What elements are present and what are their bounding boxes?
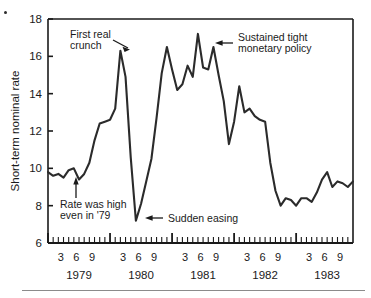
x-axis-month-label: 3 <box>244 251 250 263</box>
annotation-arrow-down-right-icon <box>113 40 130 52</box>
line-chart-svg: 681012141618 369369369369369 19791980198… <box>0 0 371 298</box>
y-axis-tick-label: 8 <box>36 200 42 212</box>
x-axis-month-label: 9 <box>337 251 343 263</box>
page-corner-mark <box>4 11 7 14</box>
annotation-sustained-tight-policy-line2: monetary policy <box>238 42 312 54</box>
y-axis-title: Short-term nominal rate <box>9 71 21 192</box>
annotation-first-real-crunch: First real crunch <box>70 28 130 52</box>
x-axis-month-label: 6 <box>322 251 328 263</box>
x-axis-month-label: 9 <box>275 251 281 263</box>
x-axis-month-label: 3 <box>58 251 64 263</box>
annotation-first-real-crunch-line2: crunch <box>70 39 102 51</box>
annotation-rate-was-high-line2: even in '79 <box>60 209 111 221</box>
x-axis-month-label: 3 <box>306 251 312 263</box>
x-axis-year-labels: 19791980198119821983 <box>66 269 340 281</box>
y-axis-tick-label: 10 <box>29 162 42 174</box>
x-axis-year-label: 1982 <box>252 269 278 281</box>
x-axis-month-label: 6 <box>135 251 141 263</box>
x-axis-month-labels: 369369369369369 <box>58 251 343 263</box>
x-axis-month-label: 6 <box>259 251 265 263</box>
annotation-rate-was-high: Rate was high even in '79 <box>60 177 127 221</box>
x-axis-year-label: 1983 <box>314 269 340 281</box>
x-axis-month-label: 3 <box>182 251 188 263</box>
y-axis-tick-label: 12 <box>29 125 42 137</box>
x-axis-ticks <box>48 233 348 243</box>
annotation-arrow-left-icon <box>145 215 163 220</box>
x-axis-month-label: 6 <box>73 251 79 263</box>
y-axis-tick-label: 16 <box>29 50 42 62</box>
y-axis-tick-label: 14 <box>29 88 42 100</box>
annotation-arrow-left-icon <box>215 40 233 45</box>
x-axis-month-label: 9 <box>213 251 219 263</box>
bottom-divider-rule <box>22 290 365 291</box>
x-axis-month-label: 9 <box>89 251 95 263</box>
x-axis-year-label: 1980 <box>128 269 154 281</box>
annotation-sudden-easing-line1: Sudden easing <box>168 212 238 224</box>
x-axis-month-label: 6 <box>197 251 203 263</box>
y-axis: 681012141618 <box>29 13 53 249</box>
annotation-sustained-tight-policy: Sustained tight monetary policy <box>215 31 312 54</box>
y-axis-tick-label: 6 <box>36 237 42 249</box>
x-axis-month-label: 3 <box>120 251 126 263</box>
annotation-arrow-up-icon <box>73 177 78 198</box>
annotation-sudden-easing: Sudden easing <box>145 212 238 224</box>
chart-figure: 681012141618 369369369369369 19791980198… <box>0 0 371 298</box>
data-series-line <box>48 34 353 221</box>
y-axis-tick-label: 18 <box>29 13 42 25</box>
x-axis-year-label: 1981 <box>190 269 216 281</box>
x-axis-year-label: 1979 <box>66 269 92 281</box>
x-axis-month-label: 9 <box>151 251 157 263</box>
